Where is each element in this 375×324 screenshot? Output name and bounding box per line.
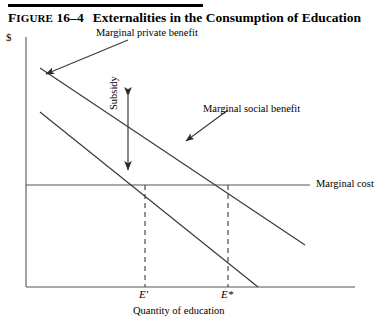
chart-plot-area xyxy=(0,0,375,324)
leader-marginal-private-benefit xyxy=(46,40,128,74)
x-axis-title: Quantity of education xyxy=(133,305,225,316)
leader-marginal-social-benefit xyxy=(186,110,228,141)
chart-svg xyxy=(0,0,375,324)
tick-label-e-star: E* xyxy=(221,288,233,300)
label-marginal-private-benefit: Marginal private benefit xyxy=(96,27,198,38)
label-marginal-social-benefit: Marginal social benefit xyxy=(203,103,300,114)
tick-label-e-prime: E′ xyxy=(139,288,148,300)
label-marginal-cost: Marginal cost xyxy=(316,178,374,189)
figure-container: FIGURE 16–4Externalities in the Consumpt… xyxy=(0,0,375,324)
y-axis-label: $ xyxy=(6,31,12,43)
label-subsidy: Subsidy xyxy=(108,76,119,110)
marginal-private-benefit-curve xyxy=(40,112,258,287)
